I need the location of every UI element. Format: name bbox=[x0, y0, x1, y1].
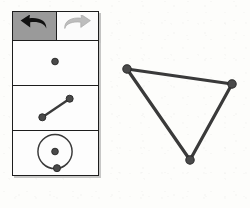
redo-button[interactable] bbox=[56, 12, 99, 40]
circle-icon bbox=[13, 131, 98, 175]
triangle-vertex-c[interactable] bbox=[186, 156, 194, 164]
undo-button[interactable] bbox=[13, 12, 56, 40]
redo-arrow-icon bbox=[61, 15, 93, 37]
sketch-canvas[interactable] bbox=[110, 50, 250, 180]
triangle-edge-bc[interactable] bbox=[190, 84, 232, 160]
triangle-edge-ab[interactable] bbox=[127, 69, 232, 84]
point-icon bbox=[13, 41, 98, 85]
segment-icon bbox=[13, 86, 98, 130]
circle-tool-panel[interactable] bbox=[12, 131, 99, 176]
triangle-shape[interactable] bbox=[123, 65, 236, 164]
point-tool-panel[interactable] bbox=[12, 41, 99, 86]
geometry-sketch-app bbox=[0, 0, 250, 208]
triangle-vertex-b[interactable] bbox=[228, 80, 236, 88]
triangle-edge-ca[interactable] bbox=[127, 69, 190, 160]
undo-redo-toolbar bbox=[12, 11, 99, 41]
undo-arrow-icon bbox=[18, 15, 50, 37]
triangle-vertex-a[interactable] bbox=[123, 65, 131, 73]
tool-palette bbox=[12, 11, 99, 176]
segment-tool-panel[interactable] bbox=[12, 86, 99, 131]
